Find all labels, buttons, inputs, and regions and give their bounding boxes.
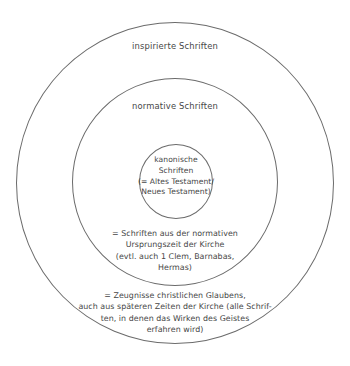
concentric-circles-diagram: inspirierte Schriften normative Schrifte… [0, 0, 350, 366]
middle-ring-note: = Schriften aus der normativen Ursprungs… [55, 228, 295, 274]
outer-ring-label: inspirierte Schriften [0, 41, 350, 52]
inner-circle-label: kanonische Schriften (= Altes Testament/… [112, 155, 240, 198]
outer-ring-note: = Zeugnisse christlichen Glaubens, auch … [28, 290, 322, 336]
middle-ring-label: normative Schriften [0, 101, 350, 112]
